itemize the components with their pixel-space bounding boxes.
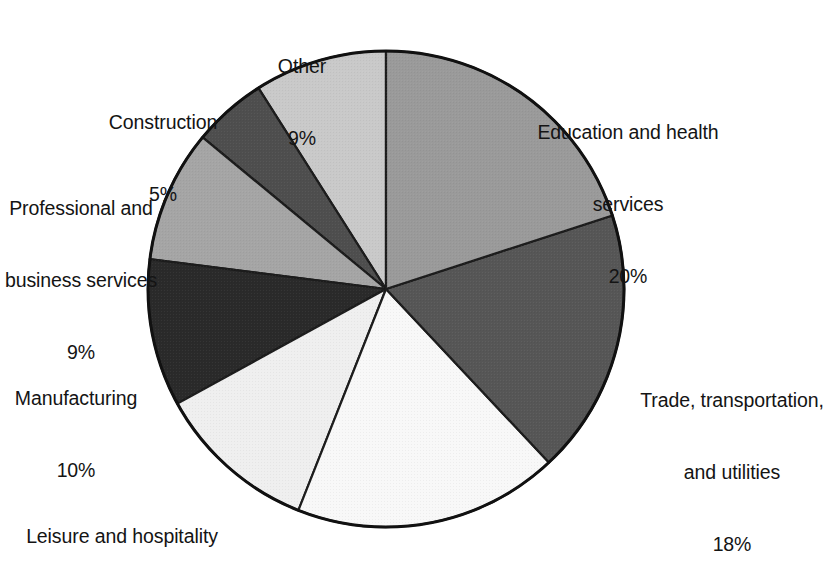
- slice-label-other-name: Other: [232, 54, 372, 78]
- slice-label-leisure-name: Leisure and hospitality: [2, 524, 242, 548]
- slice-label-manufacturing-name: Manufacturing: [0, 386, 152, 410]
- slice-label-government: Government 18%: [432, 531, 592, 581]
- slice-label-education-and-health-services: Education and health services 20%: [528, 72, 728, 336]
- slice-label-professional-name-line2: business services: [0, 268, 176, 292]
- slice-label-trade-name-line2: and utilities: [632, 460, 832, 484]
- slice-label-education-percent: 20%: [528, 264, 728, 288]
- slice-label-trade-name-line1: Trade, transportation,: [632, 388, 832, 412]
- slice-label-trade-transportation-and-utilities: Trade, transportation, and utilities 18%: [632, 340, 832, 581]
- slice-label-leisure-and-hospitality: Leisure and hospitality 11%: [2, 476, 242, 581]
- slice-label-professional-name-line1: Professional and: [0, 196, 176, 220]
- slice-label-education-name-line1: Education and health: [528, 120, 728, 144]
- slice-label-other: Other 9%: [232, 6, 372, 198]
- slice-label-trade-percent: 18%: [632, 532, 832, 556]
- slice-label-education-name-line2: services: [528, 192, 728, 216]
- slice-label-construction-name: Construction: [88, 110, 238, 134]
- slice-label-other-percent: 9%: [232, 126, 372, 150]
- pie-chart: Other 9% Construction 5% Professional an…: [0, 0, 832, 581]
